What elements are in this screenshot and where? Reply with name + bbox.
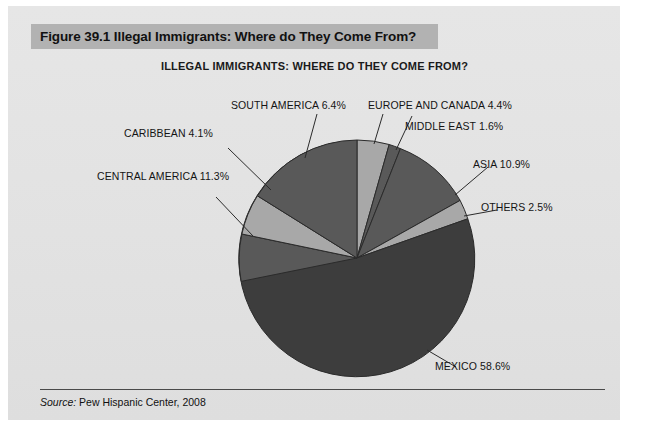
pie-chart-svg <box>31 70 621 380</box>
source-prefix: Source: <box>40 396 76 408</box>
figure-number-title: Figure 39.1 Illegal Immigrants: Where do… <box>31 29 416 44</box>
pie-label-caribbean: CARIBBEAN 4.1% <box>124 127 213 139</box>
source-note: Source: Pew Hispanic Center, 2008 <box>40 396 206 408</box>
pie-label-south-america: SOUTH AMERICA 6.4% <box>231 99 346 111</box>
pie-label-mexico: MEXICO 58.6% <box>435 360 510 372</box>
leader-line-asia <box>455 167 488 195</box>
pie-label-asia: ASIA 10.9% <box>473 158 530 170</box>
pie-label-middle-east: MIDDLE EAST 1.6% <box>405 120 503 132</box>
leader-line-caribbean <box>228 148 271 190</box>
source-divider <box>40 389 605 390</box>
pie-label-central-america: CENTRAL AMERICA 11.3% <box>97 170 229 182</box>
leader-line-europe-and-canada <box>374 114 383 144</box>
figure-header-bar: Figure 39.1 Illegal Immigrants: Where do… <box>31 24 438 49</box>
pie-label-europe-and-canada: EUROPE AND CANADA 4.4% <box>368 99 512 111</box>
pie-label-others: OTHERS 2.5% <box>481 201 553 213</box>
figure-page: Figure 39.1 Illegal Immigrants: Where do… <box>0 0 657 439</box>
pie-chart: SOUTH AMERICA 6.4% CARIBBEAN 4.1% CENTRA… <box>31 70 621 380</box>
source-value: Pew Hispanic Center, 2008 <box>76 396 206 408</box>
